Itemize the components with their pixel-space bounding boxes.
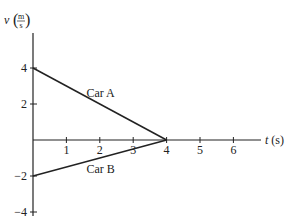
y-tick-label: −4 xyxy=(14,205,27,219)
annotation-car-a: Car A xyxy=(86,86,115,100)
velocity-time-chart: 123456 42−2−4 Car ACar B v ( m s ) t (s) xyxy=(0,0,301,220)
x-tick-label: 5 xyxy=(197,143,203,157)
x-tick-label: 6 xyxy=(230,143,236,157)
annotations: Car ACar B xyxy=(86,86,115,176)
y-axis-var: v xyxy=(4,13,10,27)
annotation-car-b: Car B xyxy=(86,162,114,176)
y-tick-label: 2 xyxy=(21,97,27,111)
y-axis-label: v ( m s ) xyxy=(4,11,30,30)
x-tick-label: 2 xyxy=(97,143,103,157)
series-lines xyxy=(33,68,167,176)
y-tick-label: 4 xyxy=(21,61,27,75)
y-tick-label: −2 xyxy=(14,169,27,183)
y-axis-unit-den: s xyxy=(19,21,22,30)
x-tick-label: 4 xyxy=(164,143,170,157)
x-axis-label-text: t (s) xyxy=(265,133,284,147)
series-car-a xyxy=(33,68,167,140)
x-axis-label: t (s) xyxy=(265,133,284,147)
y-axis-paren-close: ) xyxy=(25,11,30,29)
x-tick-label: 1 xyxy=(63,143,69,157)
axes xyxy=(33,33,261,216)
y-axis-unit-num: m xyxy=(18,12,25,21)
